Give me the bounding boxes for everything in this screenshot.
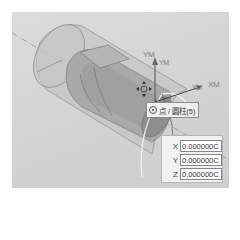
coord-row-y: Y 0.000000C [171, 153, 222, 167]
x-input[interactable]: 0.000000C [180, 140, 222, 152]
y-label: Y [171, 156, 180, 165]
snap-tooltip-text: 点 / 圆柱(5) [159, 105, 195, 116]
z-label: Z [171, 170, 180, 179]
coordinate-input-panel: X 0.000000C Y 0.000000C Z 0.000000C [161, 135, 223, 183]
ym-axis-label: YM [143, 50, 154, 59]
ym-axis-label-inner: YM [159, 59, 169, 66]
z-input[interactable]: 0.000000C [180, 168, 222, 180]
y-input[interactable]: 0.000000C [180, 154, 222, 166]
x-label: X [171, 142, 180, 151]
snap-tooltip: 点 / 圆柱(5) [146, 102, 199, 118]
coord-row-z: Z 0.000000C [171, 167, 222, 181]
drag-grip-handle[interactable] [164, 139, 168, 179]
xm-axis-label-inner: XM [192, 84, 202, 91]
coord-row-x: X 0.000000C [171, 139, 222, 153]
xm-axis-label: XM [208, 80, 219, 89]
point-on-curve-icon [149, 106, 157, 114]
